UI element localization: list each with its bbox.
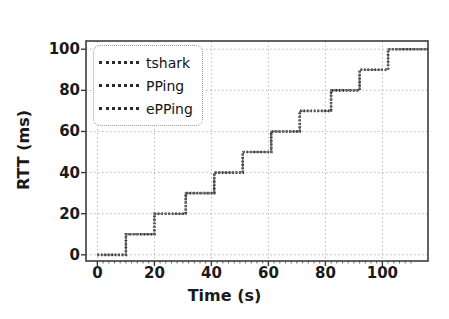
y-tick-label: 40 bbox=[59, 164, 80, 182]
x-tick-label: 40 bbox=[201, 264, 222, 282]
y-tick-label: 60 bbox=[59, 122, 80, 140]
x-tick-label: 80 bbox=[315, 264, 336, 282]
legend-item-tshark: tshark bbox=[99, 51, 198, 74]
legend-line-icon bbox=[99, 107, 139, 110]
legend-label: ePPing bbox=[146, 102, 193, 116]
x-axis-label: Time (s) bbox=[0, 286, 449, 305]
legend-label: PPing bbox=[146, 79, 184, 93]
legend-line-icon bbox=[99, 61, 139, 64]
y-axis-label: RTT (ms) bbox=[14, 50, 33, 250]
x-tick-label: 20 bbox=[144, 264, 165, 282]
y-tick-label: 0 bbox=[70, 246, 80, 264]
y-tick-label-group: 020406080100 bbox=[34, 0, 80, 319]
x-tick-label: 60 bbox=[258, 264, 279, 282]
legend-item-epping: ePPing bbox=[99, 97, 198, 120]
y-tick-label: 20 bbox=[59, 205, 80, 223]
legend-line-icon bbox=[99, 84, 139, 87]
legend-box: tshark PPing ePPing bbox=[93, 45, 203, 126]
x-tick-label: 0 bbox=[92, 264, 102, 282]
y-tick-label: 100 bbox=[49, 40, 80, 58]
y-tick-label: 80 bbox=[59, 81, 80, 99]
chart-figure: 020406080100 020406080100 Time (s) RTT (… bbox=[0, 0, 449, 319]
legend-label: tshark bbox=[146, 56, 190, 70]
x-tick-label: 100 bbox=[367, 264, 398, 282]
legend-item-pping: PPing bbox=[99, 74, 198, 97]
